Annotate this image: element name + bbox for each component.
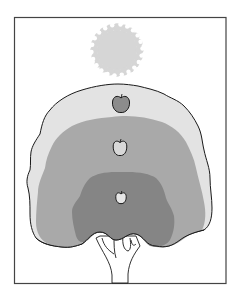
- inner-canopy-zone: [72, 172, 174, 247]
- tree-light-zones-illustration: [0, 0, 235, 298]
- apple-icon: [112, 94, 129, 113]
- apple-icon: [116, 191, 126, 204]
- apple-icon: [113, 139, 127, 156]
